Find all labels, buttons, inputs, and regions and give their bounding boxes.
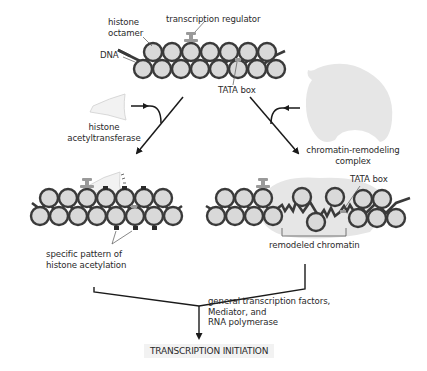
label-chromatin-remodeling-complex: chromatin-remodeling complex xyxy=(298,145,408,166)
label-transcription-regulator: transcription regulator xyxy=(166,14,260,25)
transcription-regulator-icon xyxy=(184,32,198,42)
label-tata-box-right: TATA box xyxy=(350,174,388,185)
label-transcription-initiation: TRANSCRIPTION INITIATION xyxy=(144,344,274,358)
diagram: histone octamer transcription regulator … xyxy=(0,0,427,371)
label-histone-octamer: histone octamer xyxy=(108,17,143,38)
histone-acetyltransferase-icon xyxy=(90,94,126,120)
label-tata-box-top: TATA box xyxy=(218,85,256,96)
label-dna: DNA xyxy=(100,50,119,61)
label-general-transcription-factors: general transcription factors, Mediator,… xyxy=(208,296,330,328)
chromatin-remodeling-complex-icon xyxy=(306,64,392,142)
arrow-right-branch xyxy=(250,97,300,153)
label-histone-acetyltransferase: histone acetyltransferase xyxy=(62,122,146,143)
remodeled-chromatin xyxy=(206,177,410,238)
label-remodeled-chromatin: remodeled chromatin xyxy=(269,240,360,251)
acetylated-chromatin xyxy=(31,172,182,244)
label-specific-pattern: specific pattern of histone acetylation xyxy=(46,249,126,270)
tata-box-marker xyxy=(235,58,241,61)
